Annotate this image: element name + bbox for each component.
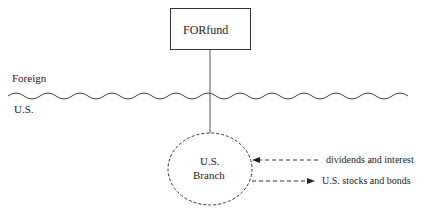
branch-line2: Branch [193,170,225,181]
arrowhead-in-icon [252,157,260,163]
region-foreign: Foreign [12,73,46,84]
branch-line1: U.S. [200,156,220,167]
flow-stocks-label: U.S. stocks and bonds [322,176,411,186]
arrowhead-out-icon [307,178,315,184]
border-wave [8,93,408,99]
fund-label: FORfund [183,24,228,36]
flow-dividends-label: dividends and interest [326,155,414,165]
region-us: U.S. [14,104,34,115]
